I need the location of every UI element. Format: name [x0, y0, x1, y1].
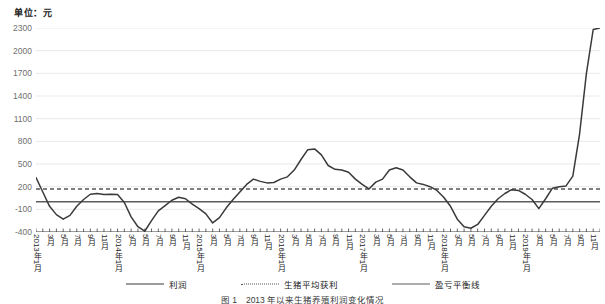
x-axis-tick-label: 3月	[290, 234, 298, 246]
x-axis-tick-label: 2014年1月	[114, 234, 122, 272]
legend-swatch-breakeven-icon	[392, 280, 430, 288]
figure-caption: 图 1 2013 年以来生猪养殖利润变化情况	[0, 293, 605, 304]
y-axis-tick-label: 800	[18, 136, 32, 146]
x-axis-tick-label: 11月	[426, 234, 434, 250]
y-axis-tick-label: -400	[15, 227, 32, 237]
x-axis-tick-label: 5月	[59, 234, 67, 246]
x-axis-tick-label: 2013年1月	[32, 234, 40, 272]
legend-swatch-average-profit-icon	[241, 280, 279, 288]
x-axis-tick-label: 7月	[154, 234, 162, 246]
x-axis-tick-label: 11月	[345, 234, 353, 250]
x-axis-tick-label: 11月	[508, 234, 516, 250]
y-axis-tick-label: 200	[18, 182, 32, 192]
x-axis-tick-label: 9月	[576, 234, 584, 246]
y-axis-tick-label: 1700	[13, 68, 32, 78]
x-axis-tick-label: 2019年1月	[521, 234, 529, 272]
x-axis-tick-label: 11月	[181, 234, 189, 250]
x-axis-tick-label: 9月	[86, 234, 94, 246]
legend-label-profit: 利润	[169, 278, 187, 290]
legend-item-profit[interactable]: 利润	[126, 278, 187, 290]
x-axis-tick-label: 7月	[480, 234, 488, 246]
y-axis-tick-label: 2000	[13, 46, 32, 56]
x-axis-tick-label: 7月	[399, 234, 407, 246]
x-axis-tick-label: 2015年1月	[195, 234, 203, 272]
x-axis-tick-label: 3月	[46, 234, 54, 246]
y-axis-tick-label: 2300	[13, 23, 32, 33]
x-axis-tick-label: 5月	[141, 234, 149, 246]
y-axis-tick-label: 1100	[14, 114, 32, 124]
x-axis-tick-label: 2017年1月	[358, 234, 366, 272]
x-axis-tick-label: 9月	[331, 234, 339, 246]
x-axis-tick-label: 7月	[562, 234, 570, 246]
x-axis-tick-label: 7月	[317, 234, 325, 246]
legend-label-breakeven-line: 盈亏平衡线	[435, 278, 480, 290]
x-axis-tick-label: 5月	[385, 234, 393, 246]
plot-svg	[36, 28, 600, 232]
legend-item-average-profit[interactable]: 生猪平均获利	[241, 278, 338, 290]
y-axis-unit-label: 单位：元	[14, 6, 52, 19]
y-axis-tick-label: -100	[15, 204, 32, 214]
x-axis-tick-label: 3月	[372, 234, 380, 246]
x-axis-tick-label: 5月	[548, 234, 556, 246]
x-axis: 2013年1月3月5月7月9月11月2014年1月3月5月7月9月11月2015…	[36, 234, 600, 278]
x-axis-tick-label: 3月	[453, 234, 461, 246]
pig-farming-profit-chart-figure: 单位：元 -400-100200500800110014001700200023…	[0, 0, 605, 304]
x-axis-tick-label: 5月	[467, 234, 475, 246]
y-axis-tick-label: 500	[18, 159, 32, 169]
x-axis-tick-label: 11月	[100, 234, 108, 250]
legend-label-average-profit: 生猪平均获利	[284, 278, 338, 290]
legend-item-breakeven-line[interactable]: 盈亏平衡线	[392, 278, 480, 290]
y-axis-tick-label: 1400	[13, 91, 32, 101]
chart-legend: 利润 生猪平均获利 盈亏平衡线	[0, 277, 605, 291]
x-axis-tick-label: 5月	[304, 234, 312, 246]
x-axis-tick-label: 9月	[494, 234, 502, 246]
x-axis-tick-label: 2016年1月	[277, 234, 285, 272]
x-axis-tick-label: 3月	[127, 234, 135, 246]
x-axis-tick-label: 5月	[222, 234, 230, 246]
x-axis-tick-label: 3月	[535, 234, 543, 246]
x-axis-tick-label: 11月	[589, 234, 597, 250]
plot-area	[36, 28, 600, 232]
x-axis-tick-label: 9月	[168, 234, 176, 246]
x-axis-tick-label: 3月	[209, 234, 217, 246]
x-axis-tick-label: 9月	[413, 234, 421, 246]
x-axis-tick-label: 9月	[249, 234, 257, 246]
x-axis-tick-label: 7月	[73, 234, 81, 246]
legend-swatch-profit-icon	[126, 280, 164, 288]
y-axis: -400-10020050080011001400170020002300	[0, 28, 32, 232]
x-axis-tick-label: 2018年1月	[440, 234, 448, 272]
x-axis-tick-label: 11月	[263, 234, 271, 250]
x-axis-tick-label: 7月	[236, 234, 244, 246]
profit-line-series	[36, 28, 600, 231]
